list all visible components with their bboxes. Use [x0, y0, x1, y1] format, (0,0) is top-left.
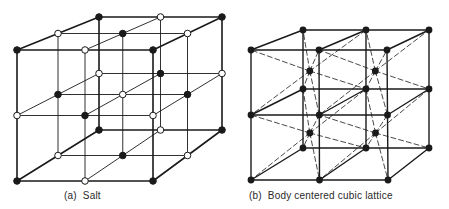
body-center-atom-icon: [372, 130, 379, 137]
corner-atom-icon: [363, 27, 370, 34]
filled-atom-icon: [14, 178, 21, 185]
corner-atom-icon: [363, 86, 370, 93]
filled-atom-icon: [119, 152, 126, 159]
filled-atom-icon: [82, 112, 89, 119]
filled-atom-icon: [184, 91, 191, 98]
corner-atom-icon: [426, 145, 433, 152]
corner-atom-icon: [300, 145, 307, 152]
body-center-atom-icon: [306, 130, 313, 137]
hollow-atom-icon: [55, 30, 62, 37]
corner-atom-icon: [316, 112, 323, 119]
corner-atom-icon: [248, 177, 255, 184]
caption-salt: (a) Salt: [64, 190, 101, 201]
crystal-lattice-figure: [0, 0, 449, 209]
hollow-atom-icon: [150, 112, 157, 119]
corner-atom-icon: [248, 112, 255, 119]
corner-atom-icon: [426, 86, 433, 93]
filled-atom-icon: [96, 127, 103, 134]
hollow-atom-icon: [219, 70, 226, 77]
hollow-atom-icon: [55, 152, 62, 159]
body-center-atom-icon: [306, 68, 313, 75]
corner-atom-icon: [300, 27, 307, 34]
corner-atom-icon: [300, 86, 307, 93]
corner-atom-icon: [248, 47, 255, 54]
filled-atom-icon: [219, 127, 226, 134]
corner-atom-icon: [316, 177, 323, 184]
filled-atom-icon: [119, 30, 126, 37]
filled-atom-icon: [14, 47, 21, 54]
body-center-atom-icon: [372, 68, 379, 75]
hollow-atom-icon: [184, 152, 191, 159]
hollow-atom-icon: [157, 127, 164, 134]
corner-atom-icon: [384, 47, 391, 54]
hollow-atom-icon: [157, 14, 164, 21]
caption-bcc: (b) Body centered cubic lattice: [249, 190, 393, 201]
bcc-edges: [251, 30, 429, 180]
hollow-atom-icon: [82, 47, 89, 54]
hollow-atom-icon: [14, 112, 21, 119]
hollow-atom-icon: [184, 30, 191, 37]
filled-atom-icon: [157, 70, 164, 77]
corner-atom-icon: [316, 47, 323, 54]
filled-atom-icon: [150, 47, 157, 54]
filled-atom-icon: [96, 14, 103, 21]
salt-lattice-diagram: [14, 14, 226, 185]
hollow-atom-icon: [96, 70, 103, 77]
corner-atom-icon: [385, 177, 392, 184]
filled-atom-icon: [55, 91, 62, 98]
bcc-lattice-diagram: [248, 27, 433, 184]
corner-atom-icon: [426, 27, 433, 34]
hollow-atom-icon: [82, 178, 89, 185]
filled-atom-icon: [150, 178, 157, 185]
corner-atom-icon: [363, 145, 370, 152]
corner-atom-icon: [384, 112, 391, 119]
hollow-atom-icon: [119, 91, 126, 98]
filled-atom-icon: [219, 14, 226, 21]
